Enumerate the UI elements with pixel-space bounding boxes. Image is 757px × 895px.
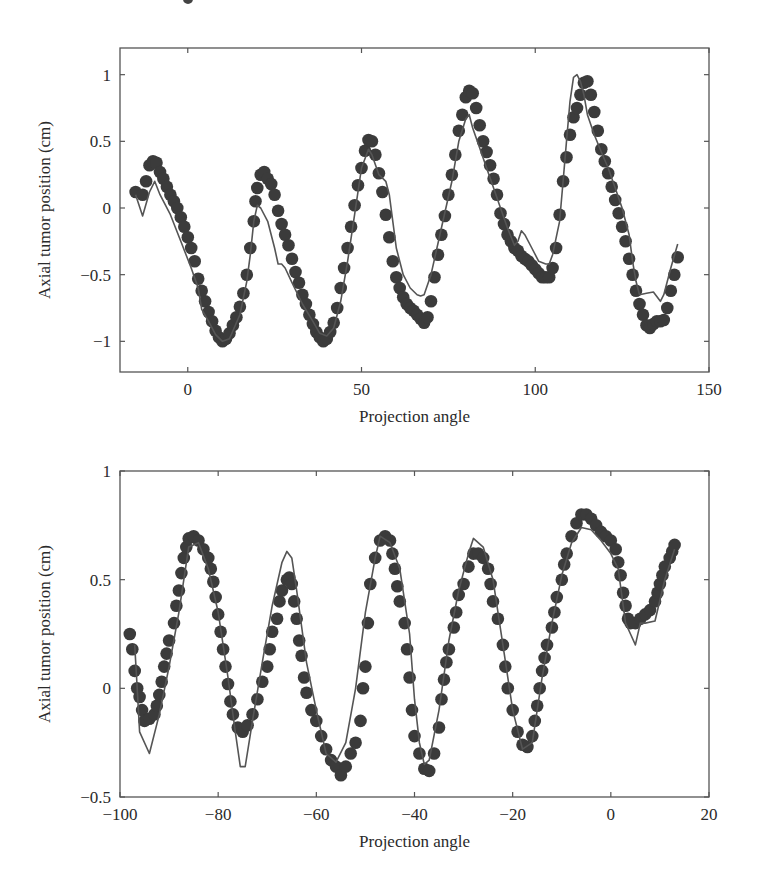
y-axis-title: Axial tumor position (cm): [35, 121, 54, 299]
data-marker: [354, 715, 367, 728]
y-tick-label: −0.5: [80, 266, 111, 285]
data-marker: [413, 747, 426, 760]
data-marker: [466, 87, 479, 100]
data-marker: [340, 760, 353, 773]
data-marker: [626, 268, 639, 281]
data-marker: [581, 75, 594, 88]
y-tick-label: 1: [103, 462, 112, 481]
x-tick-label: −60: [303, 805, 330, 824]
y-axis-title: Axial tumor position (cm): [35, 545, 54, 723]
data-marker: [344, 747, 357, 760]
marker-series: [124, 508, 681, 781]
data-marker: [588, 106, 601, 119]
x-tick-label: 0: [607, 805, 616, 824]
x-tick-label: 50: [353, 380, 370, 399]
data-marker: [282, 239, 295, 252]
data-marker: [289, 266, 302, 279]
x-axis-title: Projection angle: [359, 407, 470, 426]
data-marker: [473, 119, 486, 132]
data-marker: [124, 628, 137, 641]
data-marker: [286, 252, 299, 265]
data-marker: [661, 302, 674, 315]
data-marker: [272, 204, 285, 217]
data-marker: [271, 613, 284, 626]
data-marker: [456, 108, 469, 121]
data-marker: [275, 218, 288, 231]
y-tick-label: 0: [103, 679, 112, 698]
data-marker: [617, 586, 630, 599]
y-tick-label: 1: [103, 66, 112, 85]
data-marker: [448, 621, 461, 634]
data-marker: [403, 671, 416, 684]
bottom-plot: −100−80−60−40−2002010.50−0.5Projection a…: [35, 462, 718, 851]
x-tick-label: 0: [184, 380, 193, 399]
data-marker: [359, 660, 372, 673]
data-marker: [380, 208, 393, 221]
y-tick-label: −1: [93, 332, 111, 351]
data-marker: [614, 569, 627, 582]
data-marker: [564, 128, 577, 141]
data-marker: [366, 135, 379, 148]
x-tick-label: 20: [701, 805, 718, 824]
data-marker: [633, 298, 646, 311]
x-tick-label: −20: [499, 805, 526, 824]
data-marker: [249, 195, 262, 208]
top-plot: 05010015010.50−0.5−1Projection angleAxia…: [35, 48, 722, 426]
data-marker: [128, 665, 141, 678]
x-tick-label: −100: [102, 805, 137, 824]
data-marker: [273, 595, 286, 608]
x-tick-label: 100: [523, 380, 549, 399]
data-marker: [207, 576, 220, 589]
marker-series: [129, 75, 684, 348]
data-marker: [432, 248, 445, 261]
data-marker: [182, 231, 195, 244]
data-marker: [658, 314, 671, 327]
y-tick-label: 0.5: [90, 132, 111, 151]
data-marker: [140, 175, 153, 188]
figure: 05010015010.50−0.5−1Projection angleAxia…: [0, 0, 757, 895]
y-tick-label: 0.5: [90, 571, 111, 590]
x-tick-label: −40: [401, 805, 428, 824]
data-marker: [423, 765, 436, 778]
data-marker: [571, 102, 584, 115]
data-marker: [357, 682, 370, 695]
data-marker: [421, 311, 434, 324]
data-marker: [585, 88, 598, 101]
data-marker: [133, 691, 146, 704]
data-marker: [251, 182, 264, 195]
data-marker: [265, 178, 278, 191]
data-marker: [470, 102, 483, 115]
data-marker: [334, 282, 347, 295]
data-marker: [268, 188, 281, 201]
y-tick-label: −0.5: [80, 788, 111, 807]
x-tick-label: −80: [205, 805, 232, 824]
data-marker: [341, 242, 354, 255]
data-marker: [185, 242, 198, 255]
data-marker: [349, 736, 362, 749]
data-marker: [126, 643, 139, 656]
data-marker: [300, 686, 313, 699]
y-tick-label: 0: [103, 199, 112, 218]
data-marker: [560, 151, 573, 164]
plot-frame: [120, 471, 709, 797]
data-marker: [619, 599, 632, 612]
x-tick-label: 150: [696, 380, 722, 399]
data-marker: [550, 242, 563, 255]
data-marker: [387, 255, 400, 268]
data-marker: [345, 220, 358, 233]
x-axis-title: Projection angle: [359, 832, 470, 851]
data-marker: [390, 271, 403, 284]
data-marker: [338, 262, 351, 275]
data-marker: [425, 295, 438, 308]
data-marker: [612, 556, 625, 569]
data-marker: [450, 606, 463, 619]
data-marker: [502, 682, 515, 695]
data-marker: [310, 715, 323, 728]
